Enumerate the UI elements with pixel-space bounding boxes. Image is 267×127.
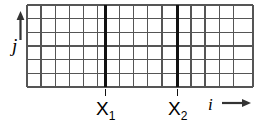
label-x2-subscript: 2 [181, 109, 188, 123]
label-x2-base: X [168, 98, 181, 119]
diagram-canvas [0, 0, 267, 127]
label-x1: X1 [96, 99, 115, 122]
j-axis-arrow [17, 11, 25, 40]
axis-label-j: j [12, 36, 17, 55]
grid-diagram: j i X1 X2 [0, 0, 267, 127]
axis-label-i: i [208, 96, 213, 113]
label-x1-subscript: 1 [109, 109, 116, 123]
label-x1-base: X [96, 98, 109, 119]
axis-ticks [106, 89, 178, 96]
label-x2: X2 [168, 99, 187, 122]
i-axis-arrow [222, 99, 251, 107]
